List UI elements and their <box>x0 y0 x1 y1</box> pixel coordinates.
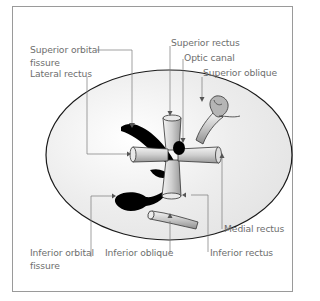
label-inferior-oblique: Inferior oblique <box>105 246 173 259</box>
label-optic-canal: Optic canal <box>184 51 235 64</box>
label-inferior-rectus: Inferior rectus <box>210 246 273 259</box>
label-lateral-rectus: Lateral rectus <box>30 67 92 80</box>
label-medial-rectus: Medial rectus <box>224 222 284 235</box>
label-superior-oblique: Superior oblique <box>203 66 277 79</box>
label-superior-rectus: Superior rectus <box>171 36 240 49</box>
label-inferior-orbital-fissure: Inferior orbital fissure <box>30 246 94 272</box>
label-superior-orbital-fissure: Superior orbital fissure <box>30 43 100 69</box>
optic-canal-shape <box>173 141 185 155</box>
lateral-rectus-shape <box>133 147 168 162</box>
